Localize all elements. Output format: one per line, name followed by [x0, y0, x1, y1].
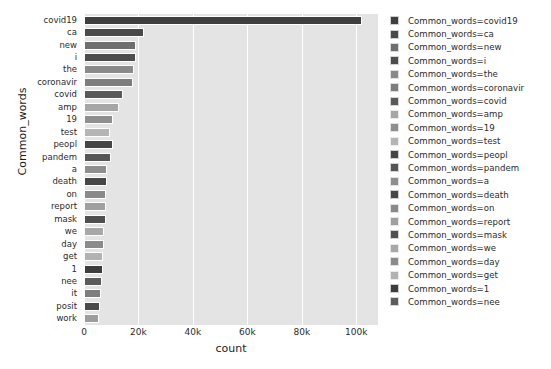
- legend-label: Common_words=coronavir: [408, 83, 524, 93]
- legend-swatch-icon: [390, 70, 399, 79]
- bar-chart-figure: covid19canewithecoronavircovidamp19testp…: [0, 0, 551, 369]
- legend-item[interactable]: Common_words=mask: [390, 228, 550, 241]
- bar-fill: [84, 202, 106, 211]
- bar-fill: [84, 90, 123, 99]
- legend-label: Common_words=test: [408, 136, 500, 146]
- x-axis-tick-labels: 020k40k60k80k100k: [84, 327, 378, 341]
- y-tick-on: on: [66, 190, 77, 199]
- bar-death: [84, 177, 107, 186]
- y-tick-pandem: pandem: [42, 153, 77, 162]
- y-tick-i: i: [75, 53, 77, 62]
- bar-fill: [84, 240, 104, 249]
- legend-item[interactable]: Common_words=nee: [390, 295, 550, 308]
- legend-item[interactable]: Common_words=pandem: [390, 161, 550, 174]
- bar-fill: [84, 115, 113, 124]
- bar-fill: [84, 128, 110, 137]
- x-tick-40k: 40k: [185, 327, 202, 337]
- y-tick-work: work: [56, 314, 77, 323]
- bar-a: [84, 165, 107, 174]
- bar-work: [84, 314, 99, 323]
- legend-label: Common_words=covid19: [408, 16, 518, 26]
- legend-label: Common_words=day: [408, 257, 500, 267]
- y-tick-it: it: [71, 289, 77, 298]
- legend-swatch-icon: [390, 204, 399, 213]
- legend-swatch-icon: [390, 271, 399, 280]
- bar-fill: [84, 78, 133, 87]
- legend-swatch-icon: [390, 284, 399, 293]
- legend-item[interactable]: Common_words=new: [390, 41, 550, 54]
- legend-item[interactable]: Common_words=the: [390, 68, 550, 81]
- legend-swatch-icon: [390, 230, 399, 239]
- legend-label: Common_words=get: [408, 270, 498, 280]
- legend-item[interactable]: Common_words=covid19: [390, 14, 550, 27]
- legend-swatch-icon: [390, 30, 399, 39]
- legend-item[interactable]: Common_words=death: [390, 188, 550, 201]
- legend: Common_words=covid19Common_words=caCommo…: [390, 14, 550, 309]
- y-tick-amp: amp: [58, 103, 77, 112]
- y-tick-ca: ca: [67, 28, 77, 37]
- legend-label: Common_words=amp: [408, 109, 503, 119]
- bar-we: [84, 227, 104, 236]
- bar-day: [84, 240, 104, 249]
- legend-swatch-icon: [390, 163, 399, 172]
- bar-fill: [84, 165, 107, 174]
- bar-covid19: [84, 16, 362, 25]
- legend-item[interactable]: Common_words=test: [390, 135, 550, 148]
- bar-pandem: [84, 153, 111, 162]
- y-tick-mask: mask: [54, 215, 77, 224]
- x-axis-title: count: [84, 342, 378, 355]
- bar-nee: [84, 277, 102, 286]
- legend-item[interactable]: Common_words=1: [390, 282, 550, 295]
- legend-item[interactable]: Common_words=get: [390, 268, 550, 281]
- legend-swatch-icon: [390, 43, 399, 52]
- bar-test: [84, 128, 110, 137]
- bar-ca: [84, 28, 144, 37]
- bar-fill: [84, 16, 362, 25]
- legend-label: Common_words=pandem: [408, 163, 519, 173]
- y-axis-tick-labels: covid19canewithecoronavircovidamp19testp…: [0, 14, 80, 325]
- legend-item[interactable]: Common_words=peopl: [390, 148, 550, 161]
- y-tick-coronavir: coronavir: [37, 78, 77, 87]
- bar-fill: [84, 53, 136, 62]
- bar-get: [84, 252, 103, 261]
- legend-label: Common_words=nee: [408, 297, 500, 307]
- legend-item[interactable]: Common_words=we: [390, 242, 550, 255]
- legend-item[interactable]: Common_words=on: [390, 201, 550, 214]
- legend-label: Common_words=i: [408, 56, 486, 66]
- bar-peopl: [84, 140, 113, 149]
- legend-swatch-icon: [390, 297, 399, 306]
- y-tick-we: we: [65, 227, 77, 236]
- legend-swatch-icon: [390, 177, 399, 186]
- legend-item[interactable]: Common_words=covid: [390, 94, 550, 107]
- legend-label: Common_words=1: [408, 284, 489, 294]
- legend-item[interactable]: Common_words=a: [390, 175, 550, 188]
- legend-item[interactable]: Common_words=report: [390, 215, 550, 228]
- legend-item[interactable]: Common_words=coronavir: [390, 81, 550, 94]
- y-tick-posit: posit: [56, 302, 77, 311]
- legend-label: Common_words=ca: [408, 29, 494, 39]
- legend-item[interactable]: Common_words=day: [390, 255, 550, 268]
- legend-item[interactable]: Common_words=amp: [390, 108, 550, 121]
- bar-new: [84, 41, 136, 50]
- legend-label: Common_words=peopl: [408, 150, 508, 160]
- legend-swatch-icon: [390, 137, 399, 146]
- plot-area: [84, 14, 378, 325]
- bar-covid: [84, 90, 123, 99]
- bar-fill: [84, 28, 144, 37]
- legend-item[interactable]: Common_words=ca: [390, 27, 550, 40]
- bar-fill: [84, 302, 100, 311]
- y-tick-day: day: [61, 240, 77, 249]
- legend-swatch-icon: [390, 190, 399, 199]
- x-tick-80k: 80k: [293, 327, 310, 337]
- legend-item[interactable]: Common_words=19: [390, 121, 550, 134]
- bar-coronavir: [84, 78, 133, 87]
- y-tick-nee: nee: [61, 277, 77, 286]
- bar-the: [84, 65, 134, 74]
- bar-fill: [84, 190, 106, 199]
- y-axis-title: Common_words: [16, 72, 29, 192]
- legend-label: Common_words=the: [408, 69, 498, 79]
- legend-item[interactable]: Common_words=i: [390, 54, 550, 67]
- legend-label: Common_words=report: [408, 217, 510, 227]
- bar-1: [84, 265, 103, 274]
- legend-label: Common_words=new: [408, 42, 502, 52]
